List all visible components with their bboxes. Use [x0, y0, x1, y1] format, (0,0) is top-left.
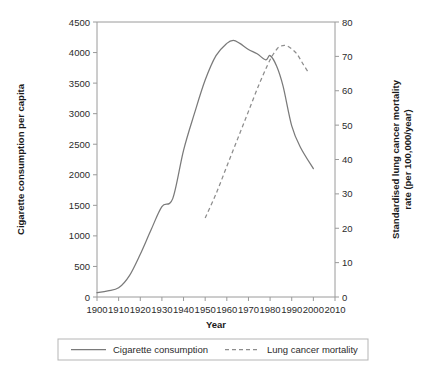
y-left-tick-label: 3500 — [69, 78, 90, 89]
x-tick-label: 1910 — [108, 304, 129, 315]
x-tick-label: 1970 — [238, 304, 259, 315]
y-left-tick-label: 4500 — [69, 17, 90, 28]
y-right-tick-label: 0 — [342, 292, 347, 303]
chart-figure: 0500100015002000250030003500400045000102… — [0, 0, 424, 375]
y-right-tick-label: 80 — [342, 17, 353, 28]
y-right-tick-label: 60 — [342, 85, 353, 96]
x-tick-label: 1940 — [173, 304, 194, 315]
y-right-tick-label: 30 — [342, 188, 353, 199]
series-line-cigarette-consumption — [97, 40, 313, 292]
y-left-tick-label: 500 — [74, 261, 90, 272]
y-left-tick-label: 1000 — [69, 230, 90, 241]
y-right-tick-label: 40 — [342, 154, 353, 165]
x-tick-label: 2010 — [324, 304, 345, 315]
y-axis-right-title-line2: rate (per 100,000/year) — [402, 109, 413, 209]
legend-label-lung-cancer-mortality: Lung cancer mortality — [267, 344, 358, 355]
y-right-tick-label: 10 — [342, 257, 353, 268]
y-left-tick-label: 3000 — [69, 108, 90, 119]
y-left-tick-label: 4000 — [69, 47, 90, 58]
y-axis-right-title-line1: Standardised lung cancer mortality — [390, 79, 401, 239]
y-right-tick-label: 20 — [342, 223, 353, 234]
y-left-tick-label: 2000 — [69, 169, 90, 180]
x-tick-label: 1990 — [281, 304, 302, 315]
x-tick-label: 1980 — [260, 304, 281, 315]
line-chart: 0500100015002000250030003500400045000102… — [0, 0, 424, 375]
x-tick-label: 1930 — [151, 304, 172, 315]
x-tick-label: 1900 — [86, 304, 107, 315]
y-left-tick-label: 2500 — [69, 139, 90, 150]
x-tick-label: 1960 — [216, 304, 237, 315]
y-left-tick-label: 0 — [85, 292, 90, 303]
x-axis-title: Year — [206, 319, 226, 330]
y-right-tick-label: 50 — [342, 120, 353, 131]
x-tick-label: 1920 — [130, 304, 151, 315]
y-left-tick-label: 1500 — [69, 200, 90, 211]
x-tick-label: 1950 — [195, 304, 216, 315]
y-axis-left-title: Cigarette consumption per capita — [15, 83, 26, 235]
y-right-tick-label: 70 — [342, 51, 353, 62]
x-tick-label: 2000 — [303, 304, 324, 315]
legend-label-cigarette-consumption: Cigarette consumption — [113, 344, 208, 355]
